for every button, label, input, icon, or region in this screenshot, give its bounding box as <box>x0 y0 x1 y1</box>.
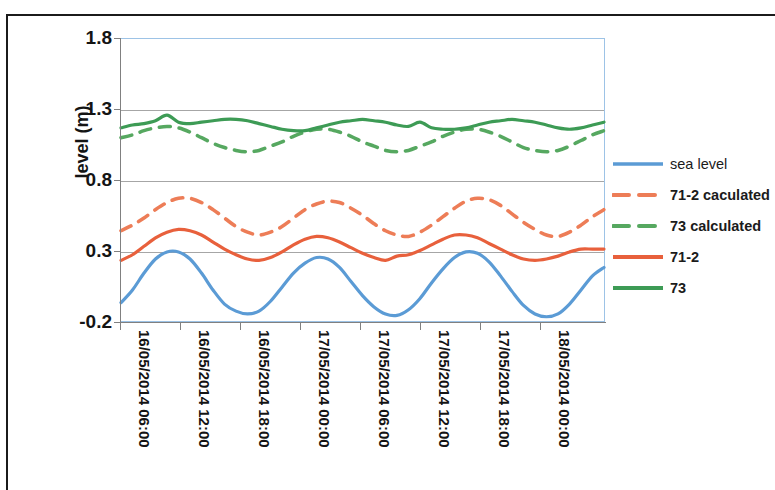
legend-label: 73 calculated <box>670 218 761 234</box>
x-tick-mark <box>240 323 241 330</box>
legend-item-71-2: 71-2 <box>612 241 775 272</box>
legend-swatch-71-2-calculated <box>612 188 664 202</box>
x-tick-mark <box>120 323 121 330</box>
legend-item-73: 73 <box>612 272 775 303</box>
legend-swatch-73-calculated <box>612 219 664 233</box>
series-line <box>121 126 604 151</box>
x-tick-mark <box>480 323 481 330</box>
legend-label: 71-2 caculated <box>670 187 770 203</box>
x-tick-label: 17/05/2014 06:00 <box>376 330 392 490</box>
tide-level-chart: level (m) 1.8 1.3 0.8 0.3 -0.2 <box>0 0 775 490</box>
legend-swatch-71-2 <box>612 250 664 264</box>
x-tick-label: 16/05/2014 12:00 <box>196 330 212 490</box>
x-tick-mark <box>300 323 301 330</box>
x-tick-label: 18/05/2014 00:00 <box>556 330 572 490</box>
x-tick-mark <box>540 323 541 330</box>
x-tick-mark <box>420 323 421 330</box>
legend-label: sea level <box>670 156 727 172</box>
chart-screenshot: level (m) 1.8 1.3 0.8 0.3 -0.2 <box>0 0 775 490</box>
x-tick-label: 17/05/2014 00:00 <box>316 330 332 490</box>
series-line <box>121 229 604 260</box>
y-tick-label: 1.8 <box>56 28 112 47</box>
x-tick-label: 16/05/2014 18:00 <box>256 330 272 490</box>
y-tick-label: 0.8 <box>56 170 112 189</box>
x-tick-label: 16/05/2014 06:00 <box>136 330 152 490</box>
legend-label: 73 <box>670 280 686 296</box>
series-line <box>121 115 604 131</box>
y-axis-line <box>120 38 121 323</box>
legend-item-71-2-calculated: 71-2 caculated <box>612 179 775 210</box>
series-lines <box>121 39 604 321</box>
chart-legend: sea level 71-2 caculated 73 calculated 7… <box>612 148 775 303</box>
y-tick-label: 0.3 <box>56 241 112 260</box>
y-axis-tick-labels: 1.8 1.3 0.8 0.3 -0.2 <box>48 0 112 490</box>
x-tick-mark <box>360 323 361 330</box>
legend-item-sea-level: sea level <box>612 148 775 179</box>
x-tick-label: 17/05/2014 18:00 <box>496 330 512 490</box>
y-tick-label: 1.3 <box>56 99 112 118</box>
plot-area <box>120 38 605 322</box>
legend-label: 71-2 <box>670 249 699 265</box>
x-axis-line <box>120 322 606 323</box>
x-tick-mark <box>180 323 181 330</box>
legend-item-73-calculated: 73 calculated <box>612 210 775 241</box>
x-tick-label: 17/05/2014 12:00 <box>436 330 452 490</box>
legend-swatch-sea-level <box>612 157 664 171</box>
y-tick-label: -0.2 <box>56 312 112 331</box>
legend-swatch-73 <box>612 281 664 295</box>
